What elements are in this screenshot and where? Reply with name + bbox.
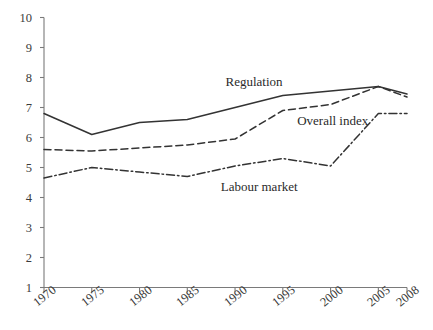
chart-plot-area — [0, 0, 433, 330]
y-axis-tick-label: 2 — [10, 252, 32, 265]
y-axis-tick-label: 8 — [10, 72, 32, 85]
y-axis-tick-label: 4 — [10, 192, 32, 205]
line-chart: 1098765432119701975198019851990199520002… — [0, 0, 433, 330]
y-axis-tick-label: 9 — [10, 42, 32, 55]
y-axis-tick-label: 1 — [10, 282, 32, 295]
series-annotation-labour-market: Labour market — [221, 180, 298, 193]
series-annotation-overall-index: Overall index — [297, 114, 368, 127]
y-axis-tick-label: 5 — [10, 162, 32, 175]
y-axis-tick-label: 10 — [10, 12, 32, 25]
y-axis-tick-label: 6 — [10, 132, 32, 145]
y-axis-tick-label: 3 — [10, 222, 32, 235]
y-axis-tick-label: 7 — [10, 102, 32, 115]
series-annotation-regulation: Regulation — [226, 75, 283, 88]
